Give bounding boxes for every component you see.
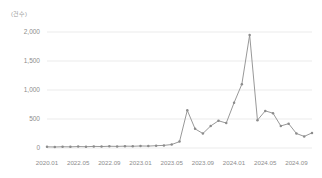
data-point xyxy=(256,119,259,122)
x-axis-tick-label: 2024.01 xyxy=(223,159,245,166)
data-point xyxy=(202,132,205,135)
data-point xyxy=(217,119,220,122)
data-series xyxy=(46,34,314,149)
data-point xyxy=(194,128,197,131)
data-point xyxy=(241,83,244,86)
x-axis-tick-label: 2023.05 xyxy=(161,159,183,166)
y-axis-tick-label: 0 xyxy=(6,144,40,151)
data-point xyxy=(155,144,158,147)
x-axis-tick-label: 2022.09 xyxy=(98,159,120,166)
gridlines xyxy=(47,32,312,148)
data-point xyxy=(209,125,212,128)
x-axis-tick-label: 2024.05 xyxy=(254,159,276,166)
x-axis-tick-label: 2023.09 xyxy=(192,159,214,166)
data-point xyxy=(116,145,119,148)
data-point xyxy=(170,143,173,146)
data-point xyxy=(69,146,72,149)
data-point xyxy=(233,102,236,105)
data-point xyxy=(303,135,306,138)
data-point xyxy=(248,34,251,37)
y-axis-tick-label: 1,500 xyxy=(6,57,40,64)
data-point xyxy=(280,125,283,128)
data-point xyxy=(287,122,290,125)
data-point xyxy=(93,145,96,148)
data-point xyxy=(85,145,88,148)
data-point xyxy=(147,145,150,148)
data-point xyxy=(272,112,275,115)
data-point xyxy=(131,145,134,148)
plot-area xyxy=(0,0,322,178)
x-axis-tick-label: 2023.01 xyxy=(129,159,151,166)
data-point xyxy=(225,122,228,125)
x-axis-tick-label: 2022.05 xyxy=(67,159,89,166)
data-point xyxy=(100,145,103,148)
data-point xyxy=(139,145,142,148)
series-markers xyxy=(46,34,314,149)
data-point xyxy=(311,132,314,135)
y-axis-tick-label: 500 xyxy=(6,115,40,122)
x-axis-tick-label: 2020.01 xyxy=(36,159,58,166)
data-point xyxy=(163,144,166,147)
data-point xyxy=(61,145,64,148)
data-point xyxy=(54,146,57,149)
line-chart: (건수) 05001,0001,5002,000 2020.012022.052… xyxy=(0,0,322,178)
series-line xyxy=(47,35,312,147)
data-point xyxy=(178,140,181,143)
data-point xyxy=(186,109,189,112)
chart-canvas xyxy=(0,0,322,178)
y-axis-tick-label: 2,000 xyxy=(6,28,40,35)
data-point xyxy=(295,132,298,135)
x-axis-tick-label: 2024.09 xyxy=(285,159,307,166)
data-point xyxy=(46,146,49,149)
data-point xyxy=(124,145,127,148)
data-point xyxy=(108,145,111,148)
y-axis-tick-label: 1,000 xyxy=(6,86,40,93)
data-point xyxy=(77,145,80,148)
data-point xyxy=(264,110,267,113)
